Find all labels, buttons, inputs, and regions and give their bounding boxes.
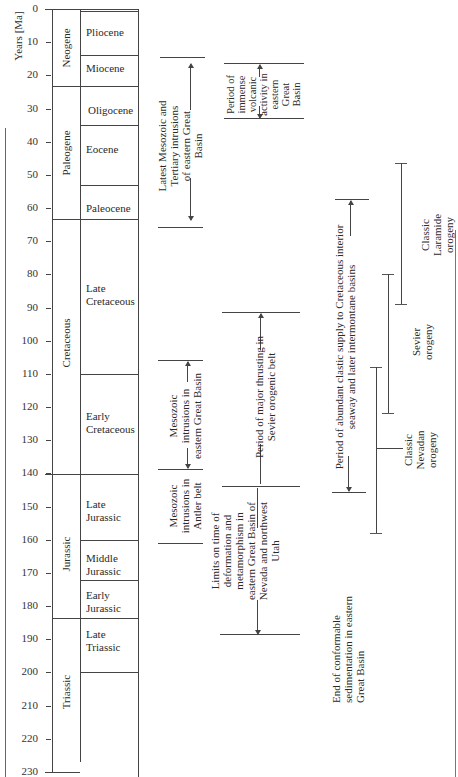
epoch-middle-jurassic-line2: Jurassic [86,565,121,578]
period-cretaceous: Cretaceous [60,303,72,383]
axis-tick-label: 150 [12,500,38,512]
label-line: of eastern Great [180,66,192,226]
label-line: Great Basin [354,573,366,703]
axis-tick-label: 140 [12,466,38,478]
laramide-bar [401,163,402,304]
axis-tick-mark [46,672,51,673]
eocene-paleocene-boundary [80,185,138,186]
limits-label: Limits on time of deformation and metamo… [209,496,281,606]
axis-tick-label: 20 [12,68,38,80]
axis-tick-mark [46,507,51,508]
epoch-early-cretaceous-line1: Early [86,410,135,423]
axis-tick-label: 60 [12,201,38,213]
label-line: orogeny [443,200,455,270]
axis-tick-mark [46,75,51,76]
label-line: Basin [192,66,204,226]
label-line: eastern [269,52,280,138]
axis-tick-label: 40 [12,135,38,147]
axis-tick-label: 120 [12,400,38,412]
label-line: Great [280,52,291,138]
axis-tick-mark [46,540,51,541]
axis-tick-label: 80 [12,267,38,279]
label-line: seaway and later intermontane basins [345,217,357,477]
label-line: orogeny [426,415,438,485]
mesozoic-eastern-label: Mesozoic intrusions in eastern Great Bas… [167,356,203,476]
oligocene-eocene-boundary [80,125,138,126]
axis-tick-mark [46,308,51,309]
axis-tick-label: 220 [12,732,38,744]
sevier-orogeny-label: Sevier orogeny [410,312,434,372]
label-line: Utah [269,496,281,606]
latest-intrusions-bottom-cap [158,227,203,228]
pliocene-miocene-boundary [80,55,138,56]
axis-tick-mark [46,142,51,143]
epoch-early-cretaceous: Early Cretaceous [86,410,135,436]
epoch-early-jurassic-line1: Early [86,589,121,602]
label-line: deformation and [221,496,233,606]
axis-tick-mark [46,374,51,375]
label-line: metamorphism in [233,496,245,606]
sevier-limits-boundary [222,486,300,487]
label-line: Mesozoic [167,461,179,551]
axis-tick-label: 110 [12,367,38,379]
late-middle-jurassic-boundary [80,540,138,541]
epoch-middle-jurassic: Middle Jurassic [86,552,121,578]
axis-tick-mark [46,407,51,408]
axis-tick-mark [46,440,51,441]
top-border-inner [80,11,138,12]
label-line: activity in [258,52,269,138]
epoch-middle-jurassic-line1: Middle [86,552,121,565]
epoch-late-jurassic-line1: Late [86,498,121,511]
epoch-pliocene: Pliocene [86,26,124,39]
nevadan-bar [376,367,377,533]
bottom-border [45,772,80,773]
axis-tick-label: 230 [12,765,38,777]
epoch-column-right-border [138,9,139,777]
axis-tick-mark [46,42,51,43]
label-line: Classic [419,200,431,270]
epoch-oligocene: Oligocene [88,104,133,117]
axis-tick-label: 170 [12,566,38,578]
epoch-late-jurassic: Late Jurassic [86,498,121,524]
latest-intrusions-top-cap [160,57,205,58]
nevadan-pointer [377,448,403,449]
label-line: Classic [402,415,414,485]
epoch-early-cretaceous-line2: Cretaceous [86,423,135,436]
epoch-eocene: Eocene [86,143,118,156]
neogene-paleogene-boundary [52,86,138,87]
label-line: intrusions in [179,461,191,551]
axis-tick-label: 0 [12,2,38,14]
latest-intrusions-label: Latest Mesozoic and Tertiary intrusions … [156,66,204,226]
sevier-thrusting-label: Period of major thrusting in Sevier orog… [253,322,277,472]
label-line: Sevier [410,312,422,372]
clastic-label: Period of abundant clastic supply to Cre… [333,217,357,477]
late-early-cretaceous-boundary [80,374,138,375]
epoch-late-triassic-line1: Late [86,628,120,641]
middle-early-jurassic-boundary [80,580,138,581]
epoch-early-jurassic: Early Jurassic [86,589,121,615]
laramide-label: Classic Laramide orogeny [419,200,455,270]
volcanic-label: Period of immense volcanic activity in e… [225,52,302,138]
axis-tick-label: 190 [12,632,38,644]
axis-tick-mark [46,639,51,640]
axis-tick-label: 30 [12,102,38,114]
label-line: immense [236,52,247,138]
axis-tick-label: 100 [12,334,38,346]
limits-bottom-cap [220,634,300,635]
label-line: Nevada and northwest [257,496,269,606]
paleogene-cretaceous-boundary [52,219,138,220]
axis-tick-label: 180 [12,599,38,611]
laramide-bottom-cap [395,304,407,305]
period-jurassic: Jurassic [60,524,72,584]
label-line: Basin [291,52,302,138]
epoch-miocene: Miocene [86,62,124,75]
axis-tick-mark [46,573,51,574]
top-border [45,9,138,10]
epoch-late-cretaceous-line1: Late [86,282,135,295]
period-column-left-border [52,9,53,772]
epoch-late-triassic-line2: Triassic [86,641,120,654]
epoch-early-jurassic-line2: Jurassic [86,602,121,615]
epoch-late-cretaceous: Late Cretaceous [86,282,135,308]
epoch-paleocene: Paleocene [86,202,131,215]
axis-tick-label: 200 [12,665,38,677]
